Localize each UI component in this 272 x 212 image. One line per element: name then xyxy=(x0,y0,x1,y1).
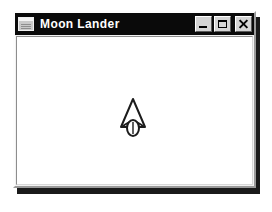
icon-text-line-2 xyxy=(21,26,31,27)
lunar-lander-craft[interactable] xyxy=(118,96,148,138)
minimize-icon xyxy=(199,26,207,28)
maximize-button[interactable] xyxy=(214,16,231,32)
window-document-icon[interactable] xyxy=(18,17,34,31)
window-controls xyxy=(195,16,252,32)
icon-text-line-3 xyxy=(21,28,31,29)
icon-titlebar-stripe xyxy=(19,18,33,21)
icon-text-line-1 xyxy=(21,24,31,25)
maximize-icon xyxy=(218,20,227,28)
desktop-background: Moon Lander xyxy=(0,0,272,212)
minimize-button[interactable] xyxy=(195,16,212,32)
moon-lander-window[interactable]: Moon Lander xyxy=(13,11,256,188)
window-title: Moon Lander xyxy=(40,13,195,35)
game-canvas[interactable] xyxy=(16,36,253,185)
close-button[interactable] xyxy=(235,16,252,32)
window-titlebar[interactable]: Moon Lander xyxy=(15,13,254,35)
